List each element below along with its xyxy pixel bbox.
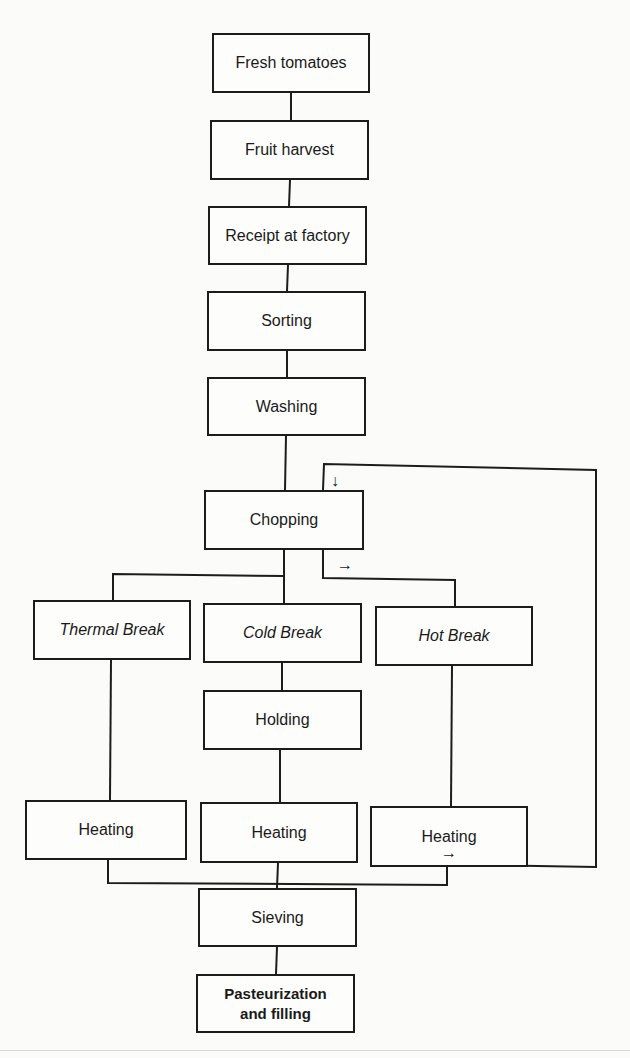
node-fresh-tomatoes: Fresh tomatoes: [212, 33, 370, 93]
node-receipt-at-factory: Receipt at factory: [208, 206, 367, 265]
node-label: Sorting: [261, 311, 312, 331]
node-label: Receipt at factory: [225, 226, 350, 246]
node-label: Thermal Break: [60, 620, 165, 640]
node-thermal-break: Thermal Break: [33, 600, 191, 660]
node-fruit-harvest: Fruit harvest: [210, 120, 369, 180]
arrow-down-icon: ↓: [331, 473, 339, 489]
node-hot-break: Hot Break: [375, 606, 533, 666]
node-label: Chopping: [250, 510, 319, 530]
node-label: Holding: [255, 710, 309, 730]
arrow-right-icon: →: [337, 557, 353, 573]
node-label: Heating: [251, 823, 306, 843]
node-label: Fruit harvest: [245, 140, 334, 160]
node-washing: Washing: [207, 377, 366, 436]
node-heating-thermal: Heating: [25, 800, 187, 860]
node-sieving: Sieving: [198, 888, 357, 947]
node-label: Hot Break: [418, 626, 489, 646]
node-cold-break: Cold Break: [203, 603, 362, 663]
node-pasteurization-filling: Pasteurization and filling: [196, 974, 355, 1033]
node-label: Cold Break: [243, 623, 322, 643]
node-label: Washing: [256, 397, 318, 417]
node-heating-cold: Heating: [200, 802, 358, 863]
arrow-right-icon: →: [441, 845, 457, 861]
node-label: Fresh tomatoes: [235, 53, 346, 73]
node-sorting: Sorting: [207, 291, 366, 351]
page-divider: [0, 1050, 630, 1051]
node-holding: Holding: [203, 690, 362, 750]
node-chopping: Chopping: [204, 490, 364, 550]
node-label: Sieving: [251, 908, 303, 928]
node-label: Pasteurization and filling: [218, 984, 333, 1024]
node-label: Heating: [78, 820, 133, 840]
